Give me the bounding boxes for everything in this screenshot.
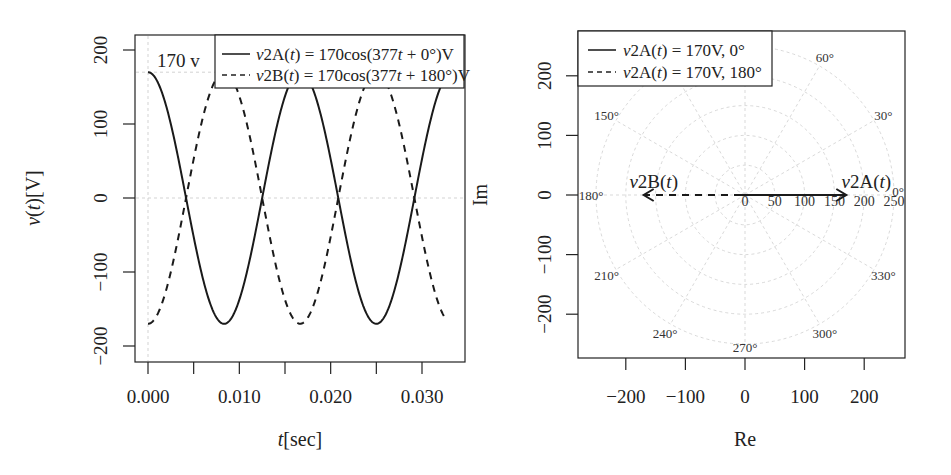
legend-entry-v2a: v2A(t) = 170cos(377t + 0°)V	[256, 45, 455, 64]
radial-label: 0	[742, 194, 749, 209]
polar-grid-spoke	[671, 195, 746, 324]
y-tick-label: −200	[534, 295, 555, 334]
time-plot-x-axis: 0.0000.0100.0200.030	[127, 362, 444, 407]
x-tick-label: 0.010	[218, 386, 261, 407]
angle-label: 300°	[813, 326, 838, 341]
polar-grid-spoke	[745, 195, 820, 324]
radial-label: 100	[794, 194, 815, 209]
angle-label: 60°	[816, 50, 834, 65]
radial-label: 150	[824, 194, 845, 209]
radial-label: 250	[884, 194, 905, 209]
phasor-plot-x-axis: −200−1000100200	[606, 358, 878, 407]
angle-label: 270°	[733, 340, 758, 355]
time-plot-legend: v2A(t) = 170cos(377t + 0°)V v2B(t) = 170…	[215, 35, 471, 88]
figure-canvas: 0.0000.0100.0200.030 −200−1000100200 t[s…	[0, 0, 951, 475]
polar-grid-spoke	[616, 195, 745, 270]
y-tick-label: 0	[534, 190, 555, 200]
legend-entry-phasor-a: v2A(t) = 170V, 0°	[623, 41, 745, 60]
angle-label: 210°	[594, 268, 619, 283]
radial-label: 50	[768, 194, 782, 209]
y-tick-label: 100	[90, 110, 111, 139]
y-tick-label: 200	[90, 36, 111, 65]
peak-annotation: 170 v	[157, 50, 200, 71]
y-tick-label: 200	[534, 62, 555, 91]
x-tick-label: 200	[850, 386, 879, 407]
y-tick-label: −100	[534, 235, 555, 274]
phasor-plot: 0°30°60°150°180°210°240°270°300°330° 050…	[469, 31, 905, 450]
phasor-plot-x-label: Re	[734, 428, 756, 450]
phasor-plot-legend: v2A(t) = 170V, 0° v2A(t) = 170V, 180°	[578, 31, 772, 86]
y-tick-label: −200	[90, 326, 111, 365]
angle-label: 180°	[579, 188, 604, 203]
phasor-plot-y-label: Im	[469, 183, 491, 206]
x-tick-label: 0.020	[309, 386, 352, 407]
x-tick-label: 0	[740, 386, 750, 407]
x-tick-label: −100	[666, 386, 705, 407]
phasor-arrows: v2A(t)v2B(t)	[629, 171, 891, 201]
angle-label: 30°	[874, 108, 892, 123]
y-tick-label: 0	[90, 193, 111, 203]
x-tick-label: 0.030	[401, 386, 444, 407]
x-tick-label: −200	[606, 386, 645, 407]
x-tick-label: 0.000	[127, 386, 170, 407]
time-plot-y-label: v(t)[V]	[22, 170, 45, 226]
radial-label: 200	[854, 194, 875, 209]
angle-label: 150°	[594, 108, 619, 123]
y-tick-label: −100	[90, 252, 111, 291]
angle-label: 330°	[871, 268, 896, 283]
time-plot-y-axis: −200−1000100200	[90, 36, 135, 366]
legend-entry-phasor-b: v2A(t) = 170V, 180°	[623, 63, 762, 82]
x-tick-label: 100	[790, 386, 819, 407]
phasor-plot-y-axis: −200−1000100200	[534, 62, 578, 334]
legend-entry-v2b: v2B(t) = 170cos(377t + 180°)V	[256, 66, 471, 85]
phasor-label: v2A(t)	[842, 171, 892, 193]
time-domain-plot: 0.0000.0100.0200.030 −200−1000100200 t[s…	[22, 35, 471, 450]
phasor-label: v2B(t)	[629, 171, 678, 193]
y-tick-label: 100	[534, 121, 555, 150]
time-plot-x-label: t[sec]	[278, 428, 322, 450]
angle-label: 240°	[653, 326, 678, 341]
